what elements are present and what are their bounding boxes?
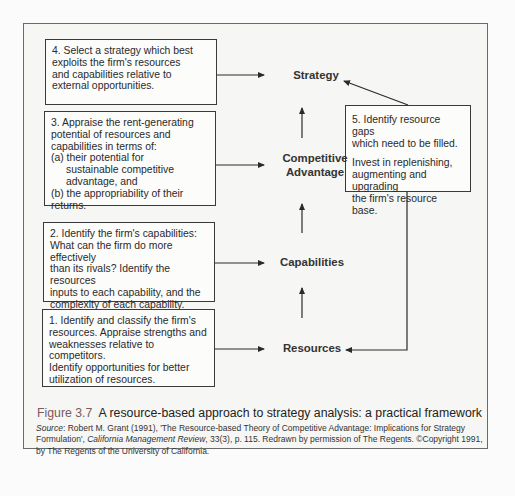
- figure-title: A resource-based approach to strategy an…: [99, 406, 482, 420]
- diagram-arrows: [0, 0, 515, 496]
- figure-caption: Figure 3.7 A resource-based approach to …: [37, 406, 482, 420]
- source-journal: California Management Review: [87, 434, 205, 444]
- source-label: Source: [36, 423, 63, 433]
- arrow-step5-to-resources: [346, 192, 407, 350]
- figure-source: Source: Robert M. Grant (1991), 'The Res…: [36, 423, 486, 457]
- arrow-step5-to-strategy: [344, 81, 408, 105]
- figure-number: Figure 3.7: [37, 406, 92, 420]
